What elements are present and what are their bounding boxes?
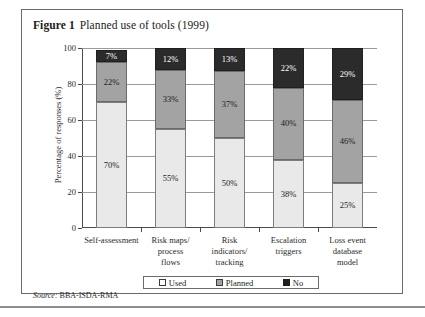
y-tick-label: 0 (72, 223, 76, 233)
bar-segment-used: 38% (273, 160, 304, 228)
bar-stack: 38%40%22% (273, 48, 304, 228)
bar-segment-no: 29% (332, 48, 363, 100)
y-tick-label: 40 (68, 151, 77, 161)
chart-legend: UsedPlannedNo (143, 276, 319, 289)
bar-group: 55%33%12% (155, 48, 186, 228)
bar-value-label: 55% (163, 174, 179, 183)
bar-value-label: 37% (222, 100, 238, 109)
bar-value-label: 40% (281, 119, 297, 128)
legend-label: No (293, 278, 303, 288)
bar-value-label: 22% (281, 64, 297, 73)
y-axis-title: Percentage of responses (%) (53, 55, 63, 215)
bar-segment-no: 22% (273, 48, 304, 88)
y-tick-label: 80 (68, 79, 77, 89)
bar-segment-no: 13% (214, 48, 245, 71)
y-tick-mark (78, 228, 82, 229)
bar-segment-no: 7% (96, 50, 127, 63)
bar-segment-planned: 46% (332, 100, 363, 183)
bar-value-label: 25% (340, 201, 356, 210)
y-tick-mark (78, 120, 82, 121)
bar-segment-planned: 40% (273, 88, 304, 160)
page-divider-rule (0, 306, 425, 308)
legend-swatch-icon (283, 279, 290, 286)
legend-item-no[interactable]: No (283, 278, 303, 288)
bar-stack: 70%22%7% (96, 48, 127, 228)
y-tick-label: 100 (63, 43, 76, 53)
bar-segment-used: 55% (155, 129, 186, 228)
y-tick-mark (78, 48, 82, 49)
legend-swatch-icon (159, 279, 166, 286)
x-tick-mark (259, 228, 260, 232)
bar-value-label: 50% (222, 179, 238, 188)
bar-value-label: 33% (163, 95, 179, 104)
legend-label: Planned (226, 278, 253, 288)
y-tick-label: 20 (68, 187, 77, 197)
bar-value-label: 12% (163, 55, 179, 64)
bar-group: 38%40%22% (273, 48, 304, 228)
legend-item-used[interactable]: Used (159, 278, 186, 288)
bar-value-label: 70% (104, 161, 120, 170)
y-tick-mark (78, 84, 82, 85)
y-tick-mark (78, 156, 82, 157)
bar-value-label: 46% (340, 137, 356, 146)
bar-segment-planned: 37% (214, 71, 245, 138)
figure-container: Figure 1Planned use of tools (1999) Perc… (21, 9, 403, 294)
x-tick-mark (141, 228, 142, 232)
bar-value-label: 22% (104, 78, 120, 87)
chart-canvas: Percentage of responses (%) 020406080100… (22, 10, 404, 295)
bar-value-label: 13% (222, 55, 238, 64)
bar-segment-used: 25% (332, 183, 363, 228)
plot-area: 020406080100 70%22%7%55%33%12%50%37%13%3… (82, 48, 377, 228)
bar-value-label: 7% (106, 52, 117, 61)
bar-stack: 25%46%29% (332, 48, 363, 228)
y-tick-label: 60 (68, 115, 77, 125)
bar-group: 50%37%13% (214, 48, 245, 228)
bar-segment-used: 50% (214, 138, 245, 228)
x-tick-mark (318, 228, 319, 232)
bar-stack: 55%33%12% (155, 48, 186, 228)
bar-group: 70%22%7% (96, 48, 127, 228)
legend-item-planned[interactable]: Planned (216, 278, 253, 288)
source-prefix: Source: (33, 291, 58, 300)
source-note: Source: BBA-ISDA-RMA (33, 291, 118, 300)
y-tick-mark (78, 192, 82, 193)
bar-value-label: 38% (281, 190, 297, 199)
bar-segment-used: 70% (96, 102, 127, 228)
x-category-label: Loss eventdatabasemodel (310, 235, 386, 268)
bar-group: 25%46%29% (332, 48, 363, 228)
source-value: BBA-ISDA-RMA (60, 291, 119, 300)
bar-segment-no: 12% (155, 48, 186, 70)
legend-swatch-icon (216, 279, 223, 286)
bar-segment-planned: 22% (96, 62, 127, 102)
legend-label: Used (169, 278, 186, 288)
bar-stack: 50%37%13% (214, 48, 245, 228)
x-tick-mark (200, 228, 201, 232)
bar-segment-planned: 33% (155, 70, 186, 129)
bar-value-label: 29% (340, 70, 356, 79)
